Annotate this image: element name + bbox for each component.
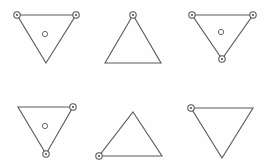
upward-triangle-apex-vertex[interactable] xyxy=(89,0,178,83)
vertex-dot-bottom xyxy=(221,58,223,60)
triangle-marker-figure xyxy=(0,0,267,166)
vertex-dot-top-left xyxy=(16,14,18,16)
figure-canvas xyxy=(0,0,267,166)
cells-layer xyxy=(0,0,267,166)
vertex-dot-top-left xyxy=(190,107,192,109)
cell-hit-area[interactable] xyxy=(178,83,267,166)
downward-triangle-right-and-bottom-vertices-with-center[interactable] xyxy=(0,83,89,166)
vertex-dot-top-right xyxy=(75,14,77,16)
center-circle-marker xyxy=(218,29,223,34)
vertex-dot-bottom xyxy=(45,153,47,155)
vertex-dot-top-right xyxy=(252,14,254,16)
vertex-dot-top-left xyxy=(191,14,193,16)
center-circle-marker xyxy=(42,31,47,36)
downward-triangle-two-top-vertices-with-center[interactable] xyxy=(0,0,89,83)
downward-triangle-top-left-vertex[interactable] xyxy=(178,83,267,166)
downward-triangle-all-vertices-with-center[interactable] xyxy=(178,0,267,83)
vertex-dot-bottom-left xyxy=(98,155,100,157)
vertex-dot-apex xyxy=(132,14,134,16)
vertex-dot-top-right xyxy=(72,106,74,108)
center-circle-marker xyxy=(42,123,47,128)
cell-hit-area[interactable] xyxy=(89,83,178,166)
upward-triangle-bottom-left-vertex[interactable] xyxy=(89,83,178,166)
